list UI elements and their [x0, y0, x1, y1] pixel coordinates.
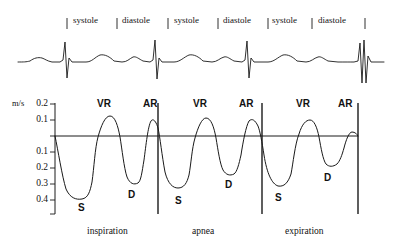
y-axis-tick-label-0: 0.2	[28, 99, 48, 109]
wave-label-d-2: D	[225, 180, 232, 190]
wave-label-vr-1: VR	[97, 99, 111, 109]
y-axis-tick-label-4: 0.3	[28, 179, 48, 189]
figure-container: systole diastole systole diastole systol…	[0, 0, 394, 248]
wave-label-s-2: S	[175, 196, 182, 206]
wave-label-s-1: S	[78, 203, 85, 213]
ecg-interval-label-diastole-1: diastole	[122, 16, 150, 25]
y-axis-tick-label-1: 0.1	[28, 115, 48, 125]
figure-canvas	[0, 0, 394, 248]
ecg-interval-label-diastole-3: diastole	[318, 16, 346, 25]
wave-label-d-1: D	[128, 190, 135, 200]
phase-dividers	[158, 103, 358, 214]
y-axis-ticks	[50, 104, 55, 214]
phase-label-expiration: expiration	[285, 227, 324, 237]
ecg-interval-label-systole-3: systole	[272, 16, 297, 25]
wave-label-vr-3: VR	[296, 99, 310, 109]
y-axis-tick-label-2: 0.1	[28, 147, 48, 157]
ecg-interval-label-systole-1: systole	[73, 16, 98, 25]
ecg-interval-label-systole-2: systole	[174, 16, 199, 25]
phase-label-inspiration: inspiration	[87, 227, 128, 237]
phase-label-apnea: apnea	[192, 227, 214, 237]
ecg-waveform	[18, 40, 384, 83]
y-axis-unit-label: m/s	[12, 99, 24, 108]
wave-label-ar-3: AR	[338, 99, 352, 109]
ecg-interval-label-diastole-2: diastole	[223, 16, 251, 25]
wave-label-d-3: D	[324, 173, 331, 183]
y-axis-tick-label-5: 0.4	[28, 195, 48, 205]
wave-label-vr-2: VR	[193, 99, 207, 109]
wave-label-ar-2: AR	[239, 99, 253, 109]
wave-label-ar-1: AR	[143, 99, 157, 109]
y-axis-tick-label-3: 0.2	[28, 163, 48, 173]
velocity-waveform	[55, 116, 358, 199]
wave-label-s-3: S	[275, 193, 282, 203]
